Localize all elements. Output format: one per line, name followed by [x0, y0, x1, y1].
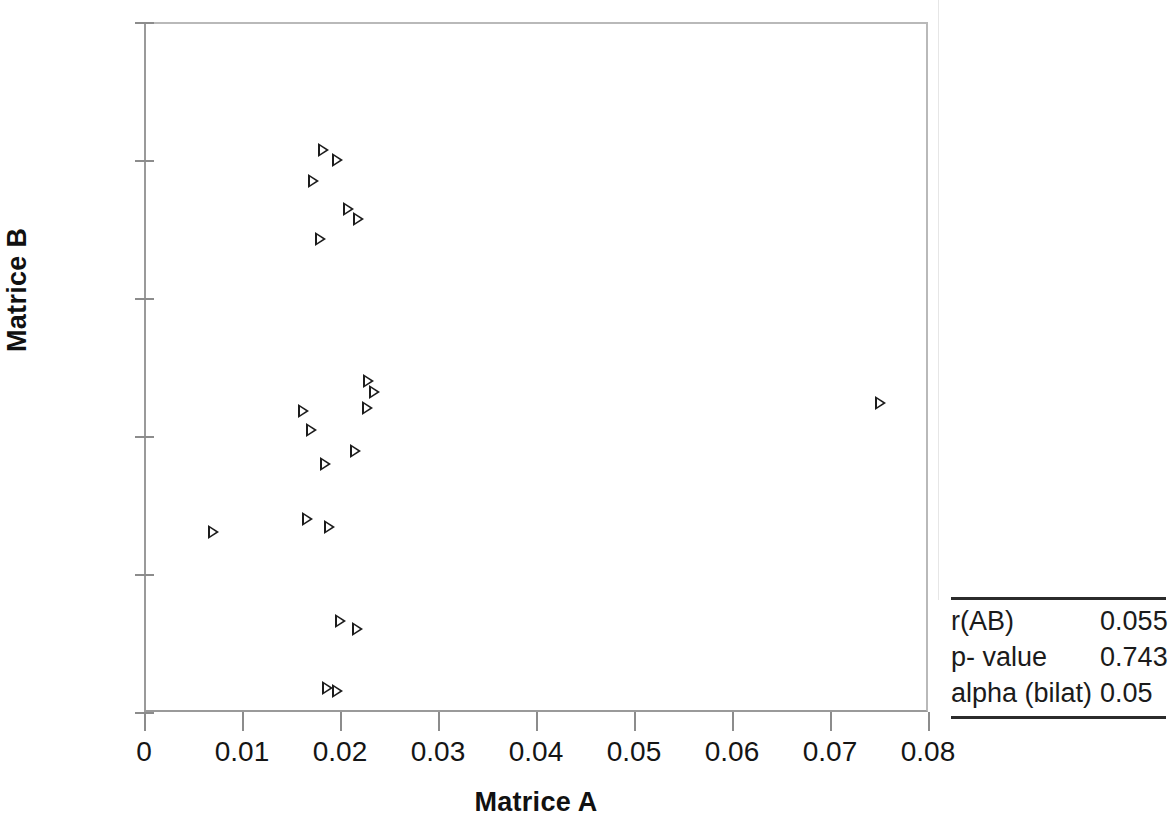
y-axis-title: Matrice B [2, 228, 33, 352]
x-axis-tick [634, 712, 636, 731]
plot-frame [144, 22, 928, 712]
plot-area: 05001000150020002500 00.010.020.030.040.… [144, 22, 928, 712]
data-point-marker [369, 385, 380, 399]
data-point-marker [335, 614, 346, 628]
stats-row-value: 0.05 [1098, 676, 1168, 712]
stats-row-label: p- value [951, 640, 1098, 676]
data-point-marker [362, 401, 373, 415]
x-axis-tick [536, 712, 538, 731]
x-axis-tick [242, 712, 244, 731]
x-axis-tick-label: 0.08 [868, 736, 988, 768]
y-axis-tick [135, 574, 154, 576]
stats-row-label: alpha (bilat) [951, 676, 1098, 712]
data-point-marker [332, 153, 343, 167]
y-axis-tick [135, 298, 154, 300]
x-axis-tick [928, 712, 930, 731]
x-axis-title: Matrice A [144, 787, 928, 818]
stats-row: alpha (bilat)0.05 [951, 676, 1168, 712]
data-point-marker [298, 404, 309, 418]
stats-row-value: 0.743 [1098, 640, 1168, 676]
data-point-marker [308, 174, 319, 188]
x-axis-tick [830, 712, 832, 731]
data-point-marker [352, 622, 363, 636]
stats-table-body: r(AB)0.055p- value0.743alpha (bilat)0.05 [951, 604, 1168, 712]
x-axis-tick [340, 712, 342, 731]
data-point-marker [315, 232, 326, 246]
data-point-marker [350, 444, 361, 458]
data-point-marker [318, 143, 329, 157]
stats-row: r(AB)0.055 [951, 604, 1168, 640]
x-axis-tick [732, 712, 734, 731]
y-axis-tick [135, 160, 154, 162]
stats-row-label: r(AB) [951, 604, 1098, 640]
data-point-marker [306, 423, 317, 437]
x-axis-tick [438, 712, 440, 731]
y-axis-tick [135, 436, 154, 438]
data-point-marker [332, 684, 343, 698]
x-axis-tick [144, 712, 146, 731]
y-axis-tick [135, 22, 154, 24]
stats-table: r(AB)0.055p- value0.743alpha (bilat)0.05 [951, 597, 1166, 719]
data-point-marker [324, 520, 335, 534]
data-point-marker [302, 512, 313, 526]
data-point-marker [320, 457, 331, 471]
stats-row-value: 0.055 [1098, 604, 1168, 640]
data-point-marker [875, 396, 886, 410]
stats-row: p- value0.743 [951, 640, 1168, 676]
scan-artifact-line [938, 0, 939, 600]
data-point-marker [353, 212, 364, 226]
data-point-marker [208, 525, 219, 539]
